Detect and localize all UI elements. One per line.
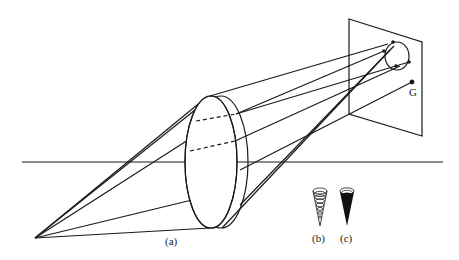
optics-diagram bbox=[0, 0, 459, 260]
label-c: (c) bbox=[340, 232, 352, 244]
point-G-label: G bbox=[409, 86, 417, 98]
refracted-rays bbox=[210, 44, 412, 228]
label-a: (a) bbox=[165, 235, 177, 247]
cone-b-icon bbox=[313, 188, 327, 226]
incident-rays bbox=[35, 96, 210, 238]
label-b: (b) bbox=[312, 232, 325, 244]
point-G-dot bbox=[410, 80, 415, 85]
cone-c-icon bbox=[340, 188, 354, 226]
screen-plane bbox=[349, 19, 422, 136]
image-points bbox=[382, 40, 414, 84]
